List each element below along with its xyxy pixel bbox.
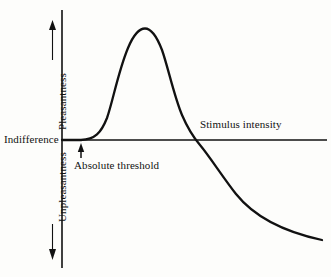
y-axis-label-pleasantness: Pleasantness [57,73,68,130]
origin-label-indifference: Indifference [4,134,59,145]
arrow-up-icon [49,20,56,60]
annotation-absolute-threshold: Absolute threshold [74,160,159,171]
y-axis-label-unpleasantness: Unpleasantness [57,152,68,222]
hedonic-tone-curve [62,29,322,241]
x-axis-label: Stimulus intensity [200,119,282,130]
hedonic-tone-figure: Indifference Stimulus intensity Absolute… [0,0,331,277]
arrow-down-icon [49,224,56,260]
threshold-arrow-up-icon [78,143,84,158]
